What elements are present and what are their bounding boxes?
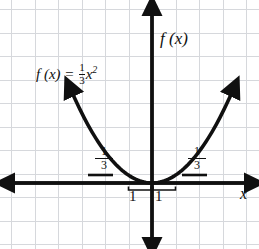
rise-marker-right-label: 1 3 <box>188 145 206 171</box>
rise-right-denominator: 3 <box>188 158 206 172</box>
rise-left-numerator: 1 <box>95 145 113 158</box>
parabola-graph-figure: f (x) = 1 3 x2 f (x) x 1 1 1 3 1 3 <box>0 0 259 249</box>
equation-exponent: 2 <box>92 64 97 75</box>
rise-left-denominator: 3 <box>95 158 113 172</box>
rise-right-numerator: 1 <box>188 145 206 158</box>
equation-label: f (x) = 1 3 x2 <box>36 62 97 86</box>
run-marker-right-label: 1 <box>155 189 163 204</box>
graph-plot-svg <box>0 0 259 249</box>
rise-marker-left-label: 1 3 <box>95 145 113 171</box>
y-axis-label: f (x) <box>160 30 188 47</box>
x-axis-label: x <box>240 186 247 202</box>
equation-lhs: f (x) = <box>36 66 74 82</box>
equation-coefficient-fraction: 1 3 <box>79 62 85 86</box>
run-marker-left-label: 1 <box>129 189 137 204</box>
equation-coeff-denominator: 3 <box>79 74 85 87</box>
equation-coeff-numerator: 1 <box>79 62 85 74</box>
